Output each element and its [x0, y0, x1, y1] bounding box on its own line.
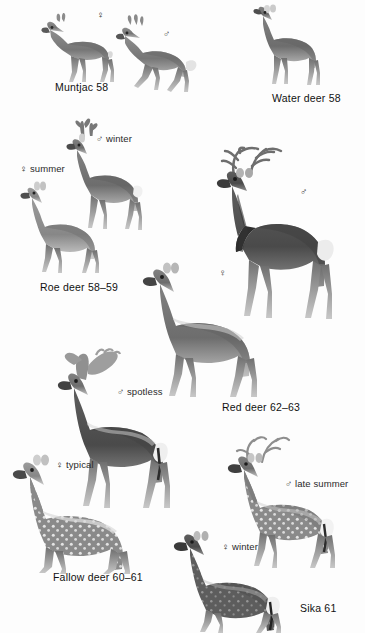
figure-muntjac-male — [112, 14, 208, 98]
caption-red-deer: Red deer 62–63 — [222, 401, 300, 413]
label-muntjac-male: ♂ — [163, 28, 170, 39]
caption-sika: Sika 61 — [300, 602, 336, 614]
label-sika-female-winter: ♀ winter — [222, 541, 258, 552]
label-red-deer-hind: ♀ — [219, 267, 227, 278]
label-fallow-female-typical: ♀ typical — [56, 459, 94, 470]
label-muntjac-female: ♀ — [97, 9, 104, 20]
figure-sika-female-winter — [164, 518, 296, 633]
figure-water-deer — [243, 4, 329, 90]
caption-water-deer: Water deer 58 — [272, 92, 341, 104]
deer-plate: ♀ ♂ Muntjac 58 — [0, 0, 365, 633]
label-roe-male-winter: ♂ winter — [96, 133, 132, 144]
caption-roe-deer: Roe deer 58–59 — [40, 281, 118, 293]
label-red-deer-stag: ♂ — [300, 186, 308, 197]
figure-muntjac-female — [38, 8, 122, 84]
caption-muntjac: Muntjac 58 — [55, 81, 108, 93]
label-sika-male-late-summer: ♂ late summer — [285, 478, 348, 489]
figure-roe-female-summer — [10, 176, 110, 276]
label-fallow-male-spotless: ♂ spotless — [117, 386, 163, 397]
label-roe-female-summer: ♀ summer — [20, 163, 65, 174]
caption-fallow-deer: Fallow deer 60–61 — [53, 571, 143, 583]
